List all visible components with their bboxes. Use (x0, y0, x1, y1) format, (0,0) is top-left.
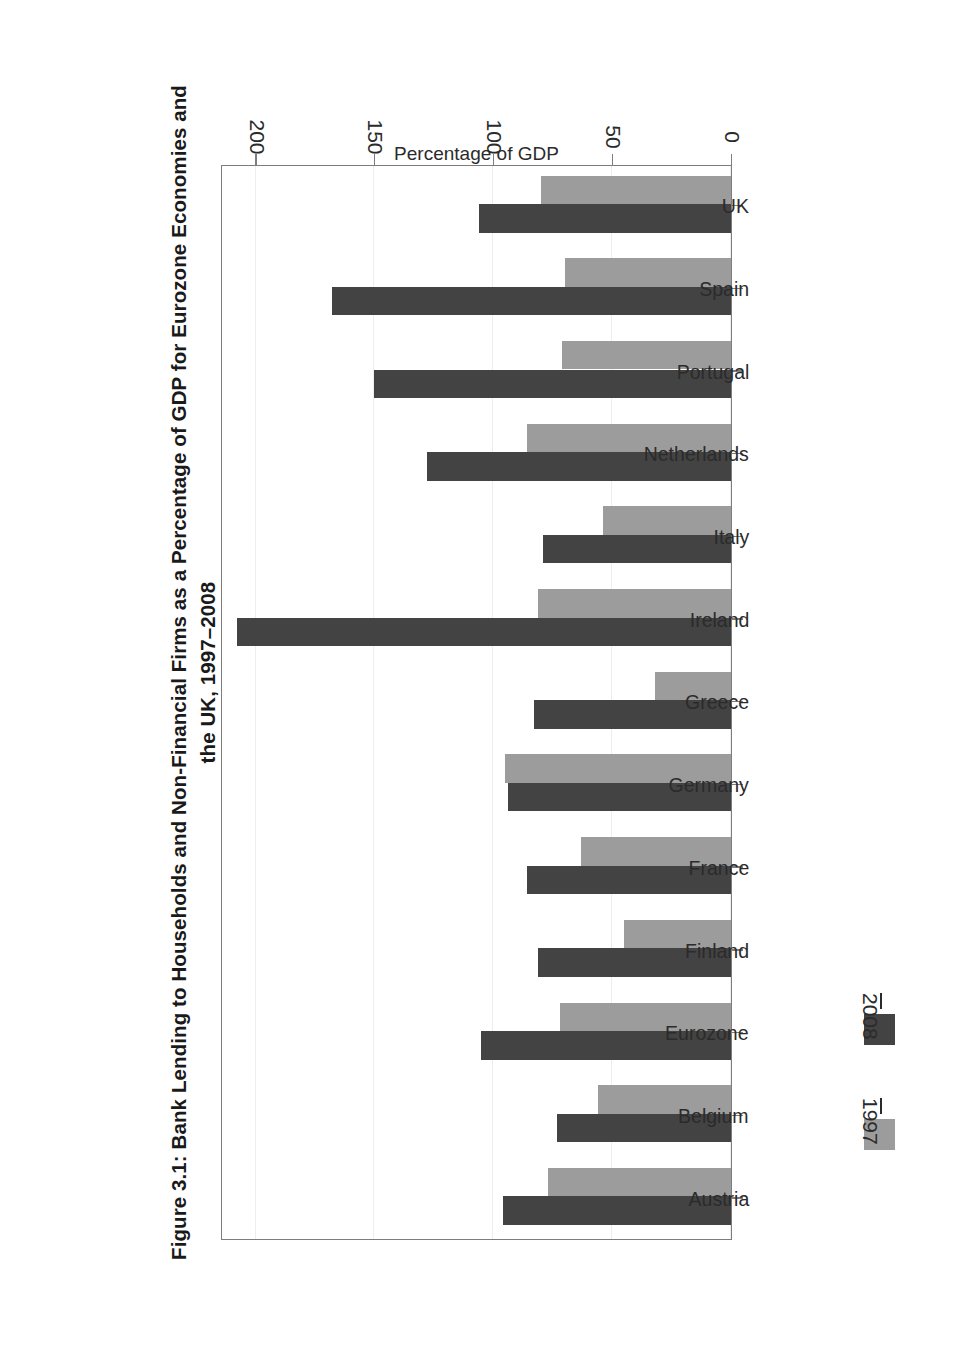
legend-label-1997: 1997 (858, 1098, 882, 1208)
value-axis-title: Percentage of GDP (221, 143, 732, 165)
category-label-uk: UK (722, 195, 749, 218)
legend-entry-2008: 2008 (763, 940, 943, 1045)
category-label-netherlands: Netherlands (644, 443, 749, 466)
legend-entry-1997: 1997 (763, 1045, 943, 1150)
figure-chart: Figure 3.1: Bank Lending to Households a… (0, 0, 953, 1345)
value-tick-label: 150 (364, 92, 388, 182)
value-tick-label: 50 (601, 92, 625, 182)
category-label-germany: Germany (669, 774, 749, 797)
bar-1997-uk (541, 176, 731, 205)
category-label-portugal: Portugal (676, 360, 749, 383)
category-label-greece: Greece (685, 691, 749, 714)
chart-title: Figure 3.1: Bank Lending to Households a… (158, 83, 222, 1263)
category-label-ireland: Ireland (689, 608, 749, 631)
bar-group (222, 164, 731, 247)
bar-2008-uk (479, 204, 731, 233)
category-label-france: France (688, 856, 749, 879)
category-label-finland: Finland (685, 939, 749, 962)
category-label-italy: Italy (713, 526, 749, 549)
bar-2008-spain (332, 287, 731, 316)
category-label-eurozone: Eurozone (666, 1022, 749, 1045)
bar-group (222, 660, 731, 743)
plot-area (221, 165, 732, 1240)
bar-group (222, 247, 731, 330)
bar-2008-italy (543, 535, 731, 564)
bar-group (222, 577, 731, 660)
value-tick-label: 200 (245, 92, 269, 182)
bar-group (222, 826, 731, 909)
category-label-austria: Austria (688, 1187, 749, 1210)
legend-label-2008: 2008 (858, 993, 882, 1103)
bar-group (222, 495, 731, 578)
category-label-spain: Spain (699, 278, 749, 301)
bars-container (222, 166, 731, 1239)
bar-group (222, 1156, 731, 1239)
bar-group (222, 908, 731, 991)
value-tick-label: 100 (482, 92, 506, 182)
bar-2008-ireland (237, 618, 731, 647)
bar-group (222, 329, 731, 412)
bar-group (222, 991, 731, 1074)
bar-group (222, 1074, 731, 1157)
figure-rotated-canvas: Figure 3.1: Bank Lending to Households a… (0, 0, 953, 1345)
category-label-belgium: Belgium (679, 1104, 749, 1127)
bar-group (222, 743, 731, 826)
bar-1997-italy (603, 506, 731, 535)
chart-legend: 19972008 (763, 940, 943, 1150)
